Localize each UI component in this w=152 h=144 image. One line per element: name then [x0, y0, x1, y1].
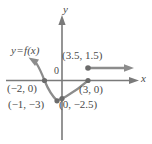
point-marker-minus2-0 — [42, 78, 47, 83]
function-label: y=f(x) — [11, 45, 39, 56]
curve-right-ray — [88, 64, 134, 71]
function-label-close-paren: ) — [36, 44, 40, 56]
x-axis-label: x — [141, 73, 146, 84]
point-marker-3point5-1point5 — [85, 65, 91, 71]
function-label-equals: = — [16, 44, 24, 56]
coordinate-plane-svg — [0, 0, 152, 144]
y-axis-arrowhead-icon — [58, 15, 65, 25]
point-label-3point5-1point5: (3.5, 1.5) — [62, 50, 102, 61]
origin-label: 0 — [54, 66, 59, 76]
y-axis — [58, 15, 65, 140]
y-axis-label: y — [63, 4, 68, 15]
point-label-minus2-0: (−2, 0) — [7, 83, 37, 94]
x-axis-arrowhead-icon — [129, 77, 139, 84]
point-label-3-0: (3, 0) — [79, 84, 103, 95]
graph-figure: y=f(x) (3.5, 1.5) (−2, 0) (3, 0) (−1, −3… — [0, 0, 152, 144]
point-label-minus1-minus3: (−1, −3) — [8, 99, 44, 110]
point-label-0-minus2point5: (0, −2.5) — [59, 99, 97, 110]
curve-right-arrowhead-icon — [124, 64, 134, 71]
